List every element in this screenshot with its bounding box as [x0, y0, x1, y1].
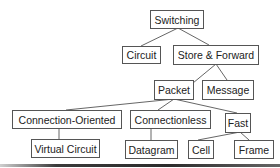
- node-label: Message: [207, 84, 250, 96]
- node-circuit: Circuit: [123, 47, 161, 64]
- node-label: Connectionless: [135, 114, 207, 126]
- edge-packet-to-connection-oriented: [66, 99, 174, 110]
- switching-taxonomy-diagram: SwitchingCircuitStore & ForwardPacketMes…: [0, 0, 280, 168]
- node-label: Switching: [155, 14, 200, 26]
- edge-store-forward-to-message: [216, 64, 227, 80]
- node-switching: Switching: [151, 11, 204, 29]
- edge-switching-to-store-forward: [178, 28, 209, 45]
- nodes-layer: SwitchingCircuitStore & ForwardPacketMes…: [13, 11, 274, 159]
- node-message: Message: [203, 81, 254, 100]
- node-cell: Cell: [189, 141, 214, 159]
- node-connection-oriented: Connection-Oriented: [13, 111, 122, 129]
- node-label: Frame: [239, 144, 269, 156]
- node-connectionless: Connectionless: [131, 111, 211, 129]
- node-fast: Fast: [226, 114, 251, 133]
- node-label: Fast: [228, 117, 249, 129]
- node-label: Datagram: [128, 144, 174, 156]
- node-store-forward: Store & Forward: [174, 46, 259, 65]
- node-datagram: Datagram: [126, 141, 178, 159]
- node-label: Store & Forward: [178, 49, 255, 61]
- node-label: Virtual Circuit: [34, 143, 96, 155]
- edge-switching-to-circuit: [141, 28, 178, 46]
- bottom-rule: [0, 164, 280, 167]
- node-packet: Packet: [155, 81, 194, 100]
- edge-fast-to-cell: [198, 132, 240, 140]
- node-label: Cell: [192, 144, 210, 156]
- edge-fast-to-frame: [240, 132, 249, 140]
- node-label: Packet: [158, 84, 190, 96]
- node-label: Connection-Oriented: [19, 114, 116, 126]
- node-frame: Frame: [235, 141, 274, 159]
- node-virtual-circuit: Virtual Circuit: [32, 140, 100, 158]
- node-label: Circuit: [127, 49, 157, 61]
